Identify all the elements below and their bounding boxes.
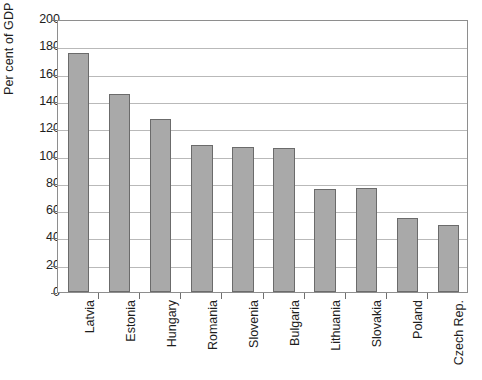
y-tick-label: 140	[12, 94, 60, 108]
x-label-text: Slovenia	[247, 300, 261, 348]
x-label-text: Czech Rep.	[452, 300, 466, 365]
y-tick-label: 160	[12, 67, 60, 81]
x-tick-mark	[180, 293, 181, 299]
x-label-text: Bulgaria	[288, 300, 302, 346]
y-tick-label: 120	[12, 121, 60, 135]
x-label-text: Latvia	[83, 300, 97, 333]
x-label-text: Hungary	[165, 300, 179, 347]
plot-area	[57, 20, 468, 293]
bar-slovakia	[356, 188, 377, 292]
y-tick-label: 100	[12, 149, 60, 163]
x-axis-label-slovakia: Slovakia	[370, 300, 384, 347]
x-label-text: Estonia	[124, 300, 138, 342]
bar-romania	[191, 145, 212, 292]
x-tick-mark	[386, 293, 387, 299]
x-tick-mark	[345, 293, 346, 299]
x-axis-label-poland: Poland	[411, 300, 425, 339]
bar-hungary	[150, 119, 171, 292]
x-axis-label-estonia: Estonia	[124, 300, 138, 342]
x-tick-mark	[98, 293, 99, 299]
x-label-text: Lithuania	[329, 300, 343, 351]
x-tick-mark	[427, 293, 428, 299]
bar-czech-rep	[438, 225, 459, 292]
x-axis-label-hungary: Hungary	[165, 300, 179, 347]
bar-estonia	[109, 94, 130, 292]
y-tick-label: 180	[12, 39, 60, 53]
bar-slovenia	[232, 147, 253, 292]
x-axis-label-romania: Romania	[206, 300, 220, 350]
x-tick-mark	[304, 293, 305, 299]
bar-bulgaria	[273, 148, 294, 292]
x-axis-label-lithuania: Lithuania	[329, 300, 343, 351]
x-tick-mark	[139, 293, 140, 299]
x-axis-label-bulgaria: Bulgaria	[288, 300, 302, 346]
x-axis-label-czech-rep: Czech Rep.	[452, 300, 466, 365]
bar-chart: Per cent of GDP 020406080100120140160180…	[0, 0, 482, 380]
y-tick-label: 20	[12, 258, 60, 272]
x-tick-mark	[263, 293, 264, 299]
x-tick-mark	[221, 293, 222, 299]
x-label-text: Romania	[206, 300, 220, 350]
bar-poland	[397, 218, 418, 292]
bars-layer	[58, 21, 467, 292]
y-tick-label: 40	[12, 230, 60, 244]
y-tick-label: 0	[12, 285, 60, 299]
y-tick-mark	[51, 293, 57, 294]
x-label-text: Poland	[411, 300, 425, 339]
x-axis-label-latvia: Latvia	[83, 300, 97, 333]
y-tick-label: 60	[12, 203, 60, 217]
bar-lithuania	[314, 189, 335, 292]
x-label-text: Slovakia	[370, 300, 384, 347]
x-axis-label-slovenia: Slovenia	[247, 300, 261, 348]
y-tick-label: 80	[12, 176, 60, 190]
bar-latvia	[68, 53, 89, 292]
y-tick-label: 200	[12, 12, 60, 26]
